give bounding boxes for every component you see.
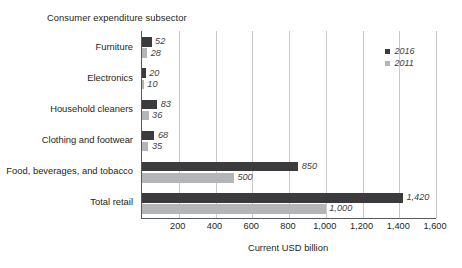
bar-value-label: 20 — [149, 69, 159, 78]
bar-group: 8336 — [142, 93, 436, 124]
x-tick-label: 1,200 — [350, 221, 373, 231]
category-label: Total retail — [90, 197, 133, 206]
x-axis-title: Current USD billion — [141, 242, 435, 253]
chart-legend: 20162011 — [385, 45, 415, 69]
bar — [142, 48, 147, 58]
category-label: Household cleaners — [50, 104, 133, 113]
gridline — [436, 31, 437, 218]
x-tick-label: 800 — [280, 221, 295, 231]
y-axis-title: Consumer expenditure subsector — [47, 12, 187, 23]
bar-group: 6835 — [142, 125, 436, 156]
category-label: Food, beverages, and tobacco — [6, 166, 133, 175]
bar-item: 500 — [142, 173, 253, 183]
legend-swatch — [385, 49, 390, 54]
bar-group: 1,4201,000 — [142, 187, 436, 218]
category-axis-labels: FurnitureElectronicsHousehold cleanersCl… — [0, 31, 137, 218]
bar-item: 28 — [142, 48, 161, 58]
bar — [142, 100, 157, 110]
x-tick-label: 200 — [170, 221, 185, 231]
bar-item: 52 — [142, 37, 165, 47]
bar-value-label: 28 — [151, 49, 161, 58]
bar-value-label: 52 — [155, 37, 165, 46]
legend-swatch — [385, 61, 390, 66]
bar-item: 1,000 — [142, 204, 352, 214]
bar — [142, 37, 152, 47]
bar-value-label: 36 — [152, 111, 162, 120]
x-tick-label: 1,600 — [424, 221, 447, 231]
bar — [142, 80, 144, 90]
category-label: Furniture — [95, 42, 133, 51]
bar-chart: Consumer expenditure subsector Furniture… — [0, 0, 462, 268]
bar-value-label: 68 — [158, 131, 168, 140]
bar-value-label: 1,000 — [329, 204, 352, 213]
bar — [142, 162, 298, 172]
x-tick-label: 400 — [207, 221, 222, 231]
legend-label: 2011 — [395, 59, 414, 68]
category-label: Clothing and footwear — [42, 135, 133, 144]
bar-item: 850 — [142, 162, 317, 172]
bar-value-label: 1,420 — [406, 193, 429, 202]
x-tick-label: 1,400 — [387, 221, 410, 231]
bar-group: 850500 — [142, 156, 436, 187]
bar-value-label: 10 — [147, 80, 157, 89]
bar-item: 1,420 — [142, 193, 429, 203]
bar-value-label: 500 — [237, 173, 252, 182]
x-tick-label: 600 — [244, 221, 259, 231]
x-tick-label: 1,000 — [313, 221, 336, 231]
bar — [142, 142, 148, 152]
bar-item: 68 — [142, 131, 168, 141]
legend-item-2011[interactable]: 2011 — [385, 57, 415, 69]
bar-item: 10 — [142, 80, 158, 90]
bar — [142, 68, 146, 78]
bar-item: 20 — [142, 68, 159, 78]
bar-item: 83 — [142, 100, 171, 110]
category-label: Electronics — [87, 73, 133, 82]
bar-item: 36 — [142, 111, 162, 121]
legend-item-2016[interactable]: 2016 — [385, 45, 415, 57]
legend-label: 2016 — [395, 47, 415, 56]
bar — [142, 193, 403, 203]
bar — [142, 111, 149, 121]
bar-value-label: 35 — [152, 142, 162, 151]
bar-value-label: 850 — [302, 162, 317, 171]
bar — [142, 204, 326, 214]
bar — [142, 173, 234, 183]
bar — [142, 131, 154, 141]
bar-item: 35 — [142, 142, 162, 152]
bar-value-label: 83 — [161, 100, 171, 109]
